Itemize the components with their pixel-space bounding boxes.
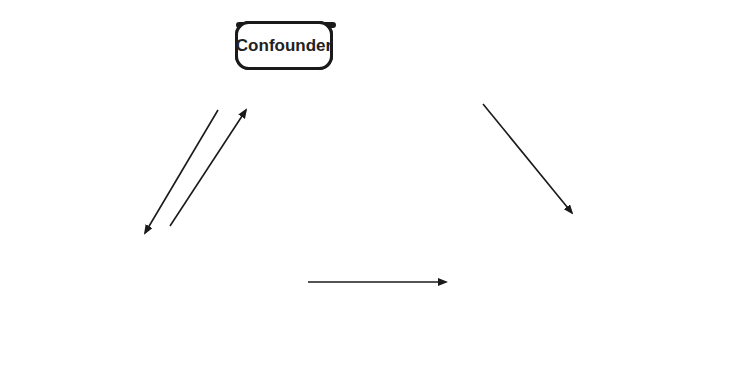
diagram-canvas: Confounder	[0, 0, 743, 382]
arrow-confounder-to-exposure	[145, 110, 218, 233]
confounder-node: Confounder	[235, 21, 333, 70]
edges-layer	[0, 0, 743, 382]
confounder-label: Confounder	[236, 36, 332, 56]
arrow-confounder-to-outcome	[483, 104, 572, 213]
